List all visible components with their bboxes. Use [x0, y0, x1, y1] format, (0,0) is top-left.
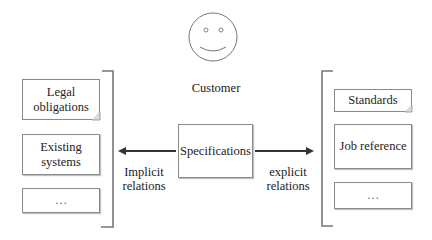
legal-obligations-line2: obligations [33, 100, 89, 115]
existing-systems-box: Existing systems [22, 134, 100, 175]
left-bracket [101, 71, 113, 227]
explicit-relations-line1: explicit [257, 165, 319, 179]
customer-label: Customer [176, 81, 256, 95]
implicit-relations-line1: Implicit [113, 165, 175, 179]
implicit-relations-line2: relations [113, 179, 175, 193]
job-reference-box: Job reference [334, 124, 412, 169]
left-more-box: … [22, 188, 100, 213]
legal-obligations-line1: Legal [33, 85, 89, 100]
specifications-box: Specifications [178, 124, 253, 178]
smiley-face-icon [189, 13, 237, 61]
implicit-relations-label: Implicit relations [113, 165, 175, 193]
job-reference-label: Job reference [340, 139, 407, 154]
explicit-relations-line2: relations [257, 179, 319, 193]
right-more-box: … [334, 182, 412, 209]
existing-systems-line1: Existing [40, 140, 82, 155]
existing-systems-line2: systems [40, 155, 82, 170]
standards-label: Standards [348, 93, 397, 108]
specifications-label: Specifications [180, 144, 251, 159]
left-more-ellipsis: … [55, 193, 68, 208]
legal-obligations-box: Legal obligations [22, 79, 100, 120]
right-bracket [322, 71, 333, 226]
explicit-relations-label: explicit relations [257, 165, 319, 193]
standards-box: Standards [334, 89, 412, 112]
right-more-ellipsis: … [367, 188, 380, 203]
